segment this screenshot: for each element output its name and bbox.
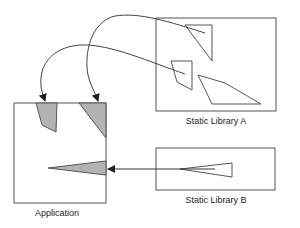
library-a-triangle-shape: [185, 25, 212, 61]
library-b-wedge-shape: [180, 163, 232, 177]
library-a-large-quad-shape: [198, 75, 261, 104]
static-library-b-label: Static Library B: [185, 195, 246, 205]
arrow-triangle-to-application: [87, 15, 205, 101]
application-box: [14, 103, 106, 203]
library-a-quad-shape: [171, 61, 192, 90]
application-label: Application: [35, 208, 79, 218]
static-library-a-box: [156, 18, 276, 111]
arrow-quad-to-application: [41, 45, 185, 101]
linking-diagram: Application Static Library A Static Libr…: [0, 0, 300, 228]
static-library-a-label: Static Library A: [186, 116, 247, 126]
